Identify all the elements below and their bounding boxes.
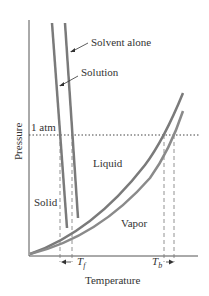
- liquid-label: Liquid: [93, 157, 122, 169]
- solvent-vapor-curve: [30, 93, 183, 254]
- tf-arrowhead: [61, 260, 66, 265]
- solid-label: Solid: [34, 196, 57, 208]
- one-atm-label: 1 atm: [31, 121, 56, 133]
- tf-label: Tf: [77, 255, 85, 270]
- solution-pointer-arrowhead: [59, 82, 64, 86]
- y-axis-label: Pressure: [12, 123, 24, 160]
- tb-subscript: b: [158, 261, 162, 270]
- tb-arrowhead: [169, 260, 174, 265]
- solvent-alone-label: Solvent alone: [91, 36, 151, 48]
- solvent-pointer-arrowhead: [70, 48, 75, 52]
- tf-subscript: f: [83, 261, 85, 270]
- solvent-fusion-curve: [65, 23, 78, 218]
- tb-label: Tb: [152, 255, 162, 270]
- vapor-label: Vapor: [121, 217, 147, 229]
- x-axis-label: Temperature: [85, 274, 140, 286]
- solution-label: Solution: [81, 66, 118, 78]
